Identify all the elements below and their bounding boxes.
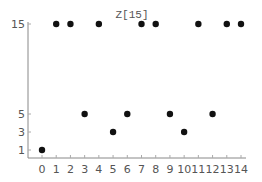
data-point [138, 21, 144, 27]
data-point [81, 111, 87, 117]
y-tick-label: 1 [18, 144, 25, 157]
y-tick-label: 15 [11, 18, 25, 31]
data-point [67, 21, 73, 27]
data-point [39, 147, 45, 153]
x-tick-label: 1 [53, 163, 60, 176]
x-tick-label: 3 [81, 163, 88, 176]
x-tick-label: 0 [39, 163, 46, 176]
x-tick-label: 5 [110, 163, 117, 176]
data-point [96, 21, 102, 27]
x-tick-label: 11 [191, 163, 205, 176]
x-tick-label: 4 [95, 163, 102, 176]
data-point [209, 111, 215, 117]
y-tick-label: 5 [18, 108, 25, 121]
data-point [224, 21, 230, 27]
data-point [53, 21, 59, 27]
x-tick-label: 12 [206, 163, 220, 176]
data-point [110, 129, 116, 135]
x-tick-label: 10 [177, 163, 191, 176]
x-tick-label: 7 [138, 163, 145, 176]
data-point [181, 129, 187, 135]
scatter-chart: Z[15] 01234567891011121314 13515 [0, 0, 262, 182]
data-point [195, 21, 201, 27]
x-tick-label: 13 [220, 163, 234, 176]
x-tick-label: 14 [234, 163, 248, 176]
x-tick-label: 6 [124, 163, 131, 176]
data-points [39, 21, 244, 153]
data-point [238, 21, 244, 27]
y-tick-label: 3 [18, 126, 25, 139]
x-tick-label: 8 [152, 163, 159, 176]
x-tick-label: 2 [67, 163, 74, 176]
x-tick-label: 9 [166, 163, 173, 176]
data-point [167, 111, 173, 117]
data-point [124, 111, 130, 117]
data-point [153, 21, 159, 27]
chart-title: Z[15] [115, 9, 148, 21]
